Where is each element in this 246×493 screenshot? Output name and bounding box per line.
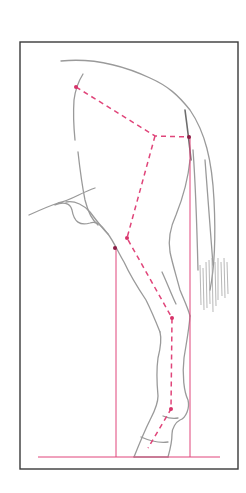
belly-line — [29, 188, 108, 234]
stifle-marker — [125, 236, 129, 240]
thigh-front-outline — [74, 74, 98, 225]
hock-marker — [170, 316, 174, 320]
stifle-outline — [66, 202, 160, 332]
gaskin-rear-outline — [169, 160, 190, 316]
stifle-front-marker — [113, 246, 117, 250]
cannon-front-outline — [134, 332, 161, 457]
femur-tibia-axis-line — [127, 136, 172, 448]
hind-leg-conformation-diagram — [0, 0, 246, 493]
tail-outline — [193, 150, 213, 270]
diagram-frame — [20, 42, 238, 469]
gaskin-inner-line — [162, 272, 176, 304]
point-of-buttock-marker — [187, 135, 191, 139]
point-of-hip-marker — [74, 85, 78, 89]
fetlock-marker — [169, 407, 173, 411]
pelvis-axis-line — [76, 87, 189, 137]
croup-outline — [61, 60, 215, 290]
